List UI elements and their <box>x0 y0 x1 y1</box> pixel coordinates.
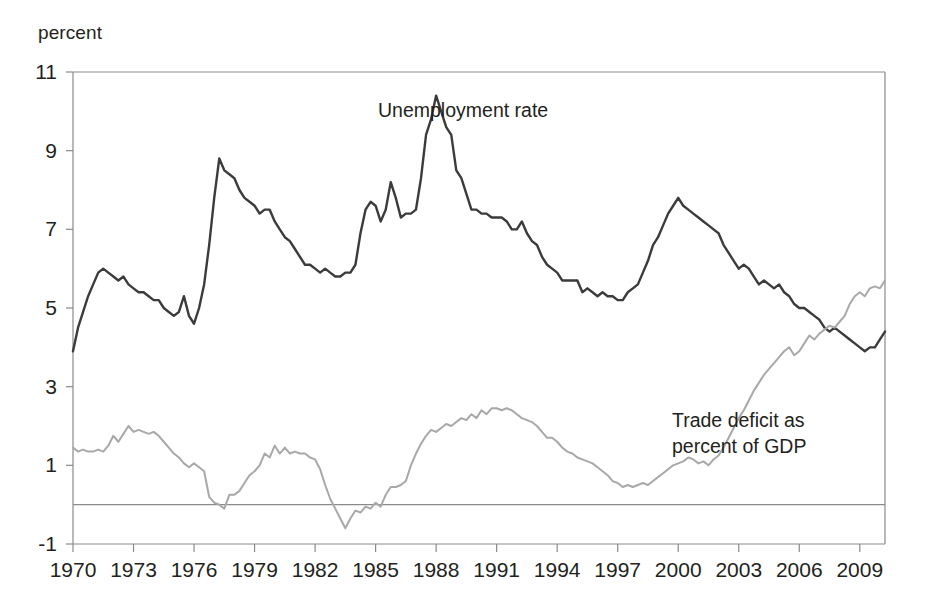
x-tick-label: 1970 <box>38 558 108 582</box>
x-tick-label: 1973 <box>99 558 169 582</box>
x-tick-label: 2006 <box>764 558 834 582</box>
tick-marks <box>66 72 860 552</box>
y-tick-label: 3 <box>17 375 57 399</box>
x-tick-label: 1991 <box>462 558 532 582</box>
y-tick-label: 11 <box>17 60 57 84</box>
chart-figure: percent -11357911 1970197319761979198219… <box>0 0 927 608</box>
chart-plot-area <box>0 0 927 608</box>
data-series <box>73 96 885 529</box>
y-tick-label: 7 <box>17 217 57 241</box>
unemployment-series-label: Unemployment rate <box>378 97 548 123</box>
x-tick-label: 1988 <box>401 558 471 582</box>
x-tick-label: 1976 <box>159 558 229 582</box>
trade-deficit-series-label: Trade deficit as percent of GDP <box>672 407 806 460</box>
y-tick-label: 9 <box>17 139 57 163</box>
x-tick-label: 1985 <box>341 558 411 582</box>
x-tick-label: 1982 <box>280 558 350 582</box>
x-tick-label: 2003 <box>704 558 774 582</box>
x-tick-label: 2000 <box>643 558 713 582</box>
x-tick-label: 1979 <box>220 558 290 582</box>
y-tick-label: -1 <box>17 532 57 556</box>
x-tick-label: 1994 <box>522 558 592 582</box>
x-tick-label: 2009 <box>825 558 895 582</box>
y-tick-label: 5 <box>17 296 57 320</box>
series-line-unemployment <box>73 96 885 352</box>
y-tick-label: 1 <box>17 453 57 477</box>
axis-lines <box>73 72 885 544</box>
x-tick-label: 1997 <box>583 558 653 582</box>
